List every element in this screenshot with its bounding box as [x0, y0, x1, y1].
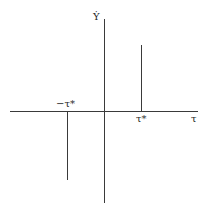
- y-axis: [104, 19, 105, 203]
- neg-tau-star-label: −τ*: [56, 99, 75, 109]
- spike-negative-tau-star: [67, 111, 68, 180]
- x-axis-label: τ: [191, 114, 197, 124]
- y-axis-label: Ẏ: [93, 12, 100, 22]
- diagram: Ẏ τ −τ* τ*: [0, 0, 208, 211]
- pos-tau-star-label: τ*: [136, 114, 147, 124]
- spike-positive-tau-star: [141, 45, 142, 111]
